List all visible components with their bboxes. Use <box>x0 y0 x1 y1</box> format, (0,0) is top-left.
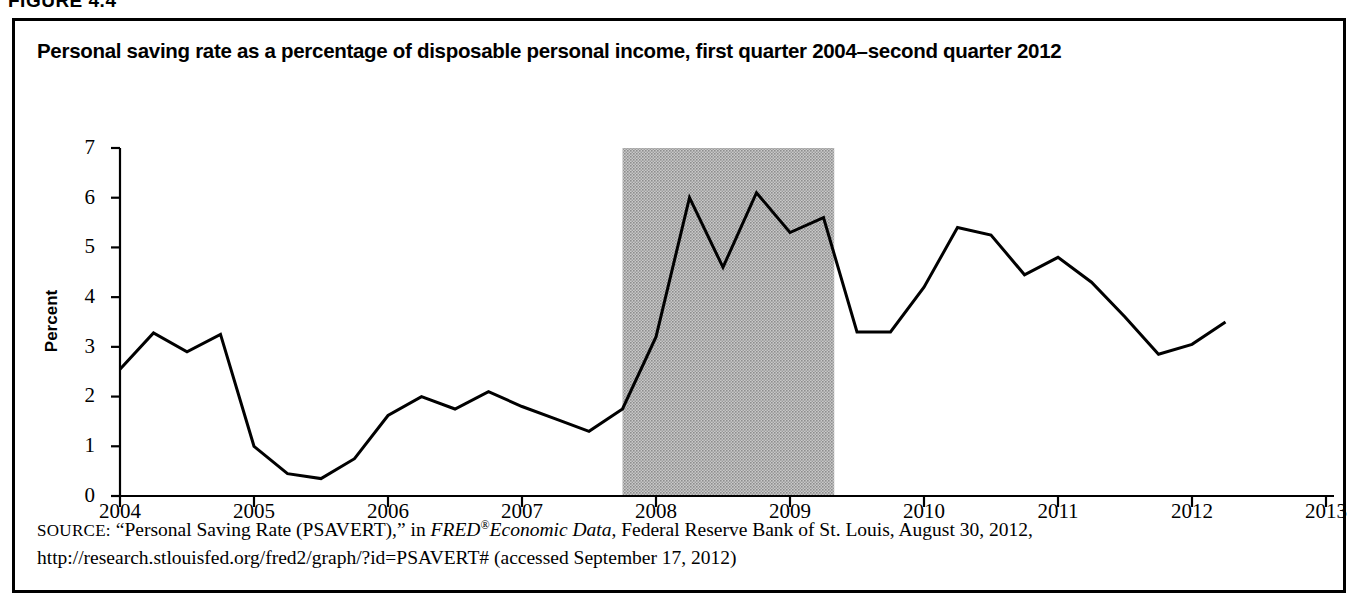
source-italic-fred: FRED <box>431 519 481 540</box>
recession-shading <box>623 148 835 496</box>
line-chart-svg <box>15 21 1349 521</box>
registered-trademark-icon: ® <box>480 518 489 532</box>
chart-plot-area: Percent 7 6 5 4 3 2 1 0 2004 2005 2006 2… <box>15 21 1349 521</box>
source-prefix: SOURCE: <box>37 521 111 540</box>
source-note: SOURCE: “Personal Saving Rate (PSAVERT),… <box>37 516 1327 571</box>
figure-container: Personal saving rate as a percentage of … <box>12 18 1346 593</box>
source-text-part1: “Personal Saving Rate (PSAVERT),” in <box>111 519 431 540</box>
source-italic-economic-data: Economic Data <box>490 519 612 540</box>
figure-number-label: FIGURE 4.4 <box>8 0 116 12</box>
